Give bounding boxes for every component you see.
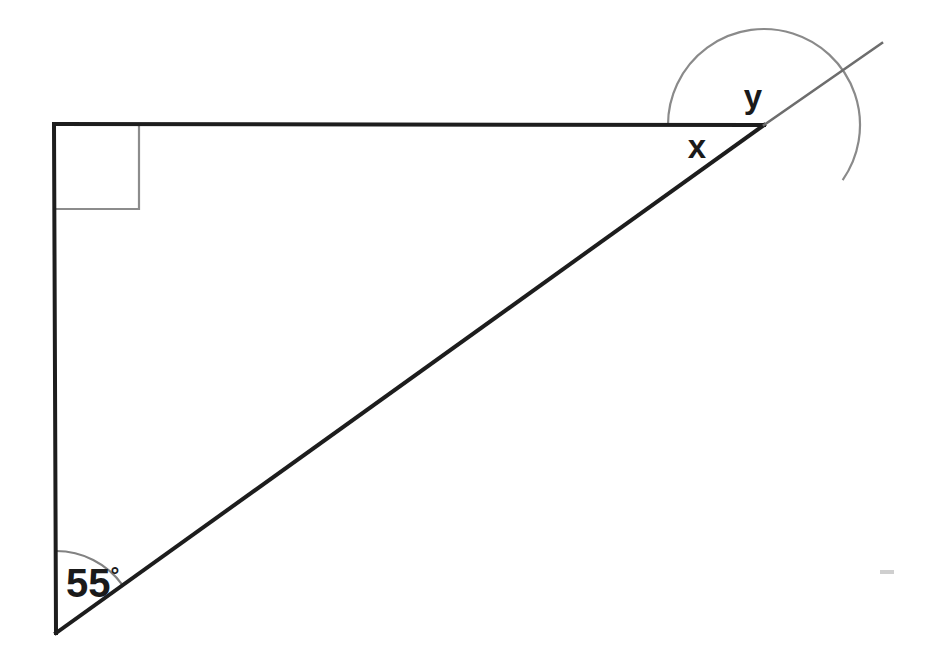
top-horizontal-segment (54, 124, 764, 125)
left-vertical-segment (54, 124, 56, 633)
scan-artifact-mark (880, 570, 894, 574)
angle-value-55: 55 (66, 561, 111, 605)
extension-ray-segment (764, 43, 882, 125)
angle-label-x: x (688, 128, 707, 165)
angle-label-y: y (744, 78, 763, 115)
right-angle-square-icon (54, 124, 139, 209)
degree-symbol: ° (111, 563, 120, 588)
geometry-diagram-canvas: y x 55° (0, 0, 937, 665)
angle-label-55-degrees: 55° (66, 561, 119, 605)
geometry-figure: y x 55° (0, 0, 937, 665)
hypotenuse-segment (56, 125, 764, 633)
